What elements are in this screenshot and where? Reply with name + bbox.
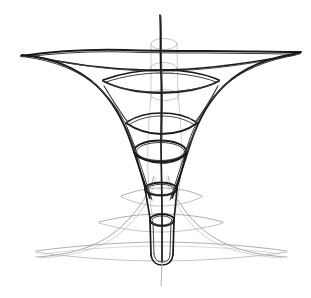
gravity-well-sketch: [0, 0, 311, 298]
figure-canvas: [0, 0, 311, 298]
